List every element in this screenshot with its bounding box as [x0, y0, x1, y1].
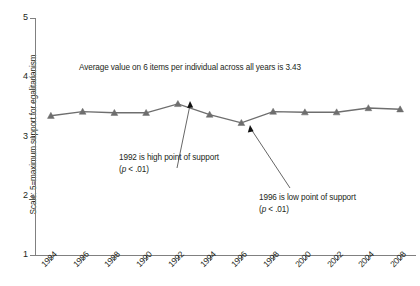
leader-arrow-high	[187, 101, 193, 108]
leader-line-low	[251, 129, 290, 188]
data-point-1992	[174, 101, 181, 107]
annotation-high-pvalue: (p < .01)	[119, 164, 219, 176]
annotation-high-pvalue-post: < .01)	[126, 165, 149, 174]
annotation-low-pvalue-post: < .01)	[266, 205, 289, 214]
series-markers	[47, 101, 403, 126]
chart-figure: Scale: 5=maximum support for egalitarian…	[0, 0, 420, 286]
series-polyline	[51, 104, 400, 123]
annotation-high-text: 1992 is high point of support	[119, 152, 219, 164]
annotation-average-value: Average value on 6 items per individual …	[79, 62, 301, 74]
annotation-low-pvalue: (p < .01)	[259, 204, 356, 216]
annotation-average-text: Average value on 6 items per individual …	[79, 63, 301, 72]
annotation-low-point: 1996 is low point of support (p < .01)	[259, 192, 356, 215]
leader-arrow-low	[248, 125, 254, 132]
annotation-high-point: 1992 is high point of support (p < .01)	[119, 152, 219, 175]
series-line-chart	[0, 0, 420, 286]
annotation-low-text: 1996 is low point of support	[259, 192, 356, 204]
